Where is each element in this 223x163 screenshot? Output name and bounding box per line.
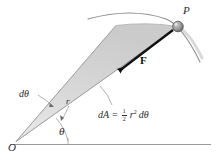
particle-ball-highlight <box>175 23 178 26</box>
origin-label: O <box>8 142 16 153</box>
formula-radius-term: r2 <box>130 109 137 120</box>
dA-leader-line <box>100 86 112 105</box>
radius-line-plus-dtheta <box>16 26 116 142</box>
formula-radius-exponent: 2 <box>134 109 137 115</box>
fraction-numerator: 1 <box>122 108 127 114</box>
force-vector-label: F <box>140 55 147 66</box>
physics-diagram-figure <box>0 0 223 163</box>
formula-differential: dθ <box>139 110 149 120</box>
radius-leader-tick <box>60 115 64 121</box>
radius-label: r <box>66 97 70 106</box>
formula-equals: = <box>112 110 118 120</box>
differential-area-formula: dA = 1 2 r2 dθ <box>98 108 149 122</box>
fraction-denominator: 2 <box>122 116 127 122</box>
point-p-label: P <box>183 5 190 16</box>
formula-fraction-one-half: 1 2 <box>122 108 127 122</box>
d-theta-label: dθ <box>19 89 29 99</box>
theta-angle-label: θ <box>59 126 64 137</box>
formula-lhs: dA <box>98 110 109 120</box>
particle-ball-marker <box>173 21 184 32</box>
